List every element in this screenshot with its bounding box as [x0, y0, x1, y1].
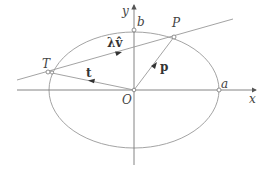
label-T: T: [42, 57, 51, 71]
point-P: [172, 35, 176, 39]
diagram-svg: y x b P a O T t p λv̂: [0, 0, 271, 175]
label-P: P: [171, 16, 181, 30]
vector-lambda-v-arrowhead: [115, 52, 122, 57]
label-p: p: [160, 60, 168, 74]
label-a: a: [221, 77, 228, 91]
label-b: b: [137, 15, 145, 29]
point-O: [132, 88, 136, 92]
point-T-intersect: [50, 71, 53, 74]
ellipse-diagram: y x b P a O T t p λv̂: [0, 0, 271, 175]
label-O: O: [122, 93, 132, 107]
point-b: [132, 28, 136, 32]
label-y: y: [121, 4, 129, 18]
label-lambda-v: λv̂: [107, 36, 123, 50]
label-t: t: [86, 66, 92, 80]
label-x: x: [249, 92, 256, 106]
